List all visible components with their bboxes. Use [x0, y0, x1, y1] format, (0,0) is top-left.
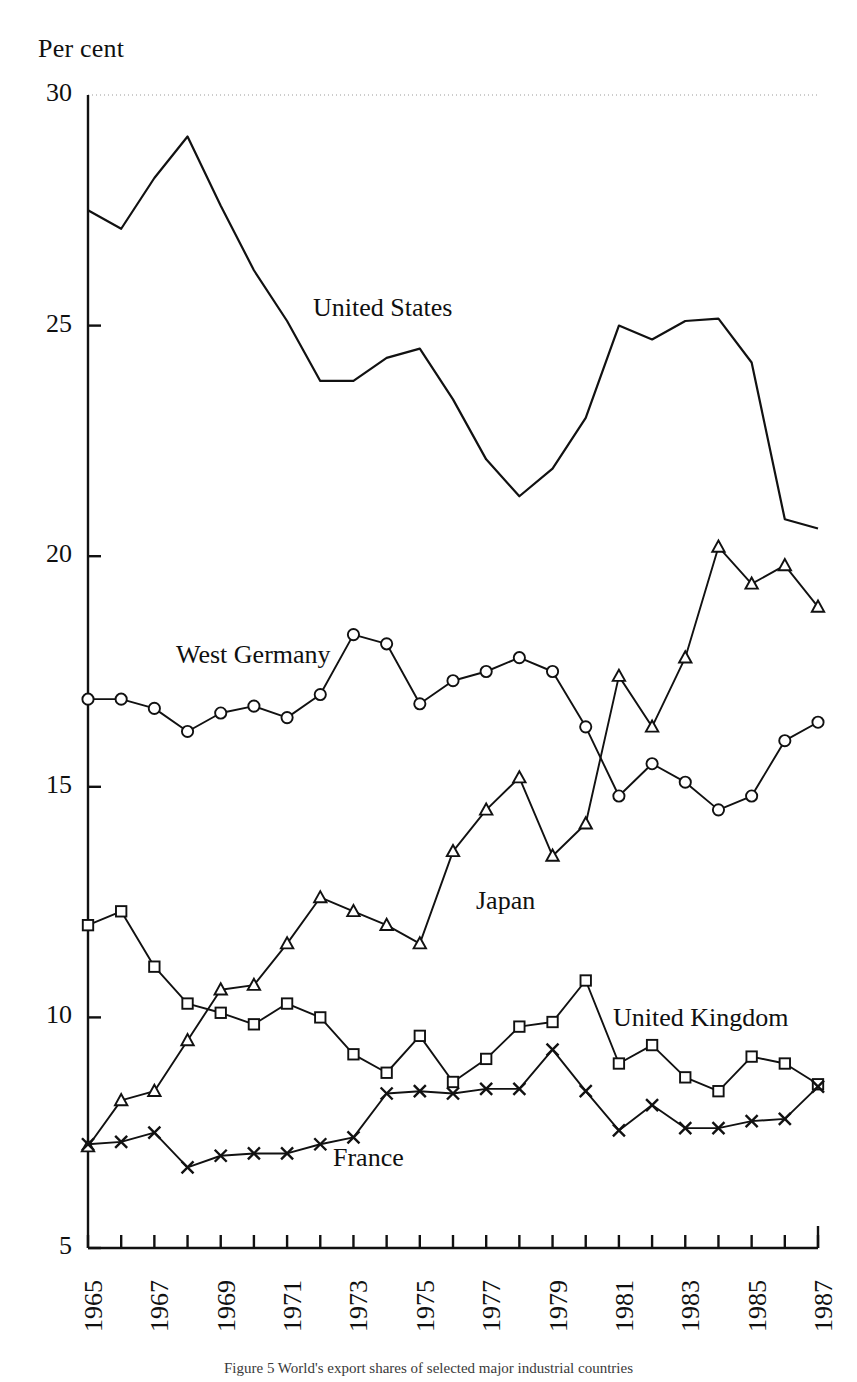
data-point-marker	[547, 666, 558, 677]
x-axis-tick-label: 1971	[278, 1280, 308, 1332]
x-axis-tick-label: 1985	[743, 1280, 773, 1332]
series-france	[82, 1044, 824, 1174]
line-chart-plot	[0, 0, 857, 1382]
data-point-marker	[580, 817, 592, 828]
data-point-marker	[713, 804, 724, 815]
data-point-marker	[514, 1021, 524, 1031]
data-point-marker	[348, 1049, 358, 1059]
series-united-states	[88, 137, 818, 529]
data-point-marker	[580, 721, 591, 732]
data-point-marker	[149, 961, 159, 971]
x-axis-tick-label: 1979	[544, 1280, 574, 1332]
data-point-marker	[779, 559, 791, 570]
x-axis-tick-label: 1967	[145, 1280, 175, 1332]
series-label-france: France	[333, 1143, 404, 1173]
data-point-marker	[680, 777, 691, 788]
data-point-marker	[314, 891, 326, 902]
series-line	[88, 137, 818, 529]
data-point-marker	[712, 541, 724, 552]
data-point-marker	[315, 689, 326, 700]
data-point-marker	[381, 1068, 391, 1078]
data-point-marker	[514, 652, 525, 663]
data-point-marker	[415, 1031, 425, 1041]
y-axis-tick-label: 30	[16, 78, 72, 108]
x-axis-tick-label: 1973	[344, 1280, 374, 1332]
series-label-united-states: United States	[313, 293, 452, 323]
data-point-marker	[414, 698, 425, 709]
data-point-marker	[812, 717, 823, 728]
data-point-marker	[647, 1040, 657, 1050]
data-point-marker	[680, 1072, 690, 1082]
data-point-marker	[679, 651, 691, 662]
figure-container: Per cent United States West Germany Japa…	[0, 0, 857, 1382]
data-point-marker	[249, 1019, 259, 1029]
data-point-marker	[315, 1012, 325, 1022]
x-axis-tick-label: 1965	[79, 1280, 109, 1332]
series-label-united-kingdom: United Kingdom	[613, 1003, 789, 1033]
y-axis-tick-label: 15	[16, 770, 72, 800]
y-axis-tick-label: 5	[16, 1231, 72, 1261]
data-point-marker	[282, 998, 292, 1008]
data-point-marker	[713, 1086, 723, 1096]
data-point-marker	[646, 758, 657, 769]
data-point-marker	[448, 1077, 458, 1087]
series-line	[88, 911, 818, 1091]
series-united-kingdom	[83, 906, 823, 1096]
series-line	[88, 1050, 818, 1168]
data-point-marker	[216, 1008, 226, 1018]
data-point-marker	[646, 720, 658, 731]
data-point-marker	[82, 694, 93, 705]
data-point-marker	[116, 906, 126, 916]
data-point-marker	[513, 771, 525, 782]
data-point-marker	[148, 1085, 160, 1096]
x-axis-tick-label: 1983	[676, 1280, 706, 1332]
y-axis-tick-label: 25	[16, 309, 72, 339]
x-axis-tick-label: 1969	[212, 1280, 242, 1332]
data-point-marker	[613, 790, 624, 801]
x-axis-tick-label: 1975	[411, 1280, 441, 1332]
data-point-marker	[215, 707, 226, 718]
data-point-marker	[182, 726, 193, 737]
data-point-marker	[447, 675, 458, 686]
data-point-marker	[116, 694, 127, 705]
data-point-marker	[381, 638, 392, 649]
data-point-marker	[248, 700, 259, 711]
data-point-marker	[746, 790, 757, 801]
data-point-marker	[780, 1058, 790, 1068]
data-point-marker	[481, 1054, 491, 1064]
series-label-west-germany: West Germany	[176, 640, 331, 670]
series-japan	[82, 541, 824, 1152]
data-point-marker	[481, 666, 492, 677]
x-axis-tick-label: 1981	[610, 1280, 640, 1332]
data-point-marker	[348, 629, 359, 640]
data-point-marker	[181, 1034, 193, 1045]
data-point-marker	[83, 920, 93, 930]
data-point-marker	[281, 712, 292, 723]
data-point-marker	[581, 975, 591, 985]
data-point-marker	[613, 670, 625, 681]
data-point-marker	[614, 1058, 624, 1068]
y-axis-tick-label: 20	[16, 539, 72, 569]
x-axis-tick-label: 1987	[809, 1280, 839, 1332]
x-axis-tick-label: 1977	[477, 1280, 507, 1332]
data-point-marker	[182, 998, 192, 1008]
data-point-marker	[149, 703, 160, 714]
data-point-marker	[414, 937, 426, 948]
figure-caption: Figure 5 World's export shares of select…	[0, 1360, 857, 1377]
data-point-marker	[547, 1017, 557, 1027]
data-point-marker	[779, 735, 790, 746]
y-axis-tick-label: 10	[16, 1000, 72, 1030]
data-point-marker	[746, 1051, 756, 1061]
series-label-japan: Japan	[476, 886, 535, 916]
